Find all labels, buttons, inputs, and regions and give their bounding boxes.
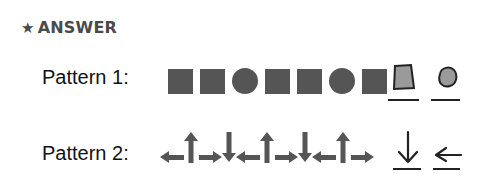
star-icon: ★ bbox=[21, 19, 35, 37]
down-arrow-icon bbox=[298, 132, 312, 166]
pattern-2-answer-2 bbox=[433, 130, 463, 174]
pattern-1-label: Pattern 1: bbox=[42, 66, 129, 89]
square-answer-icon bbox=[388, 62, 420, 96]
circle-shape bbox=[232, 68, 258, 94]
up-arrow-icon bbox=[336, 132, 350, 166]
pattern-1-answer-1 bbox=[388, 62, 420, 102]
square-shape bbox=[265, 69, 290, 94]
circle-answer-icon bbox=[431, 62, 463, 96]
pattern-1-sequence bbox=[168, 68, 394, 94]
down-arrow-icon bbox=[222, 132, 236, 166]
pattern-2-sequence bbox=[160, 132, 374, 166]
up-arrow-icon bbox=[184, 132, 198, 166]
up-arrow-icon bbox=[260, 132, 274, 166]
answer-heading-text: ANSWER bbox=[38, 18, 117, 37]
square-shape bbox=[168, 69, 193, 94]
left-arrow-answer-icon bbox=[433, 130, 463, 166]
left-arrow-icon bbox=[312, 132, 336, 166]
left-arrow-icon bbox=[160, 132, 184, 166]
square-shape bbox=[297, 69, 322, 94]
answer-heading: ★ ANSWER bbox=[21, 18, 117, 37]
right-arrow-icon bbox=[350, 132, 374, 166]
pattern-2-answer-1 bbox=[393, 130, 423, 174]
square-shape bbox=[362, 69, 387, 94]
right-arrow-icon bbox=[198, 132, 222, 166]
right-arrow-icon bbox=[274, 132, 298, 166]
circle-shape bbox=[329, 68, 355, 94]
pattern-2-label: Pattern 2: bbox=[42, 142, 129, 165]
pattern-1-answer-2 bbox=[431, 62, 463, 102]
left-arrow-icon bbox=[236, 132, 260, 166]
square-shape bbox=[200, 69, 225, 94]
down-arrow-answer-icon bbox=[393, 130, 423, 166]
